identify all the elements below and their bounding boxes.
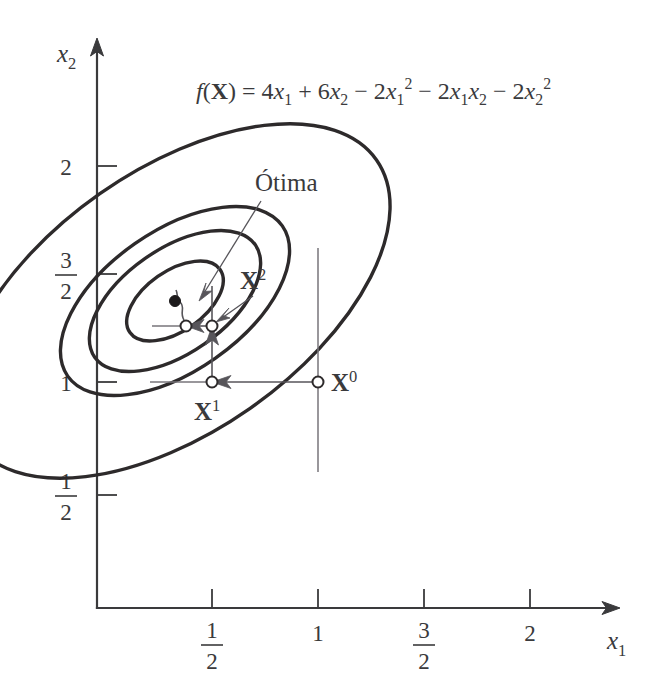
objective-function-equation: f(X) = 4x1 + 6x2 − 2x12 − 2x1x2 − 2x22 <box>196 75 551 108</box>
y-tick-label-3-2-denominator: 2 <box>60 279 72 304</box>
equation-term5-var: x <box>524 78 536 104</box>
label-x0: X0 <box>331 367 357 396</box>
y-tick-label-3-2: 3 2 <box>55 248 77 304</box>
equation-term1-var: x <box>273 78 285 104</box>
equation-term4-sub2: 2 <box>479 91 487 108</box>
equation-term5-sup: 2 <box>543 75 551 92</box>
equation-term3-sup: 2 <box>404 75 412 92</box>
equation-minus3: − <box>493 78 507 104</box>
optimum-leader-arrowhead <box>199 283 212 301</box>
x-tick-label-1-2: 1 2 <box>201 618 223 674</box>
equation-term2-var: x <box>329 78 341 104</box>
x-tick-label-1: 1 <box>312 621 324 646</box>
label-x2: X2 <box>240 265 266 294</box>
equation-term5-sub: 2 <box>535 91 543 108</box>
equation-minus1: − <box>354 78 368 104</box>
equation-arg-X: X <box>211 78 229 104</box>
point-marker-x3 <box>181 321 192 332</box>
y-tick-label-1-2-numerator: 1 <box>60 469 72 494</box>
equation-term3-var: x <box>385 78 397 104</box>
equation-term4-var1: x <box>449 78 461 104</box>
equation-minus2: − <box>418 78 432 104</box>
y-axis-label: x2 <box>56 40 76 73</box>
equation-term4-var2: x <box>467 78 479 104</box>
equation-term1-sub: 1 <box>284 91 292 108</box>
figure-canvas: f(X) = 4x1 + 6x2 − 2x12 − 2x1x2 − 2x22 x… <box>0 0 657 689</box>
x-tick-label-3-2-numerator: 3 <box>418 618 430 643</box>
x-tick-marks <box>212 589 530 608</box>
equation-term4-sub1: 1 <box>461 91 469 108</box>
x-axis-label: x1 <box>606 627 626 660</box>
x-tick-label-3-2: 3 2 <box>413 618 435 674</box>
equation-term2-coef: 6 <box>318 78 330 104</box>
equation-term3-coef: 2 <box>374 78 386 104</box>
point-marker-x0 <box>313 377 324 388</box>
equation-term1-coef: 4 <box>262 78 274 104</box>
x2-leader-arrowhead <box>216 308 230 322</box>
equation-equals: = <box>242 78 256 104</box>
y-tick-label-2: 2 <box>60 155 72 180</box>
equation-plus1: + <box>298 78 312 104</box>
equation-text: f(X) = 4x1 + 6x2 − 2x12 − 2x1x2 − 2x22 <box>196 75 551 108</box>
point-marker-optimum <box>170 296 181 307</box>
x-tick-label-2: 2 <box>524 621 536 646</box>
optimum-label: Ótima <box>255 169 318 196</box>
x-tick-label-1-2-numerator: 1 <box>206 618 218 643</box>
label-x1: X1 <box>194 396 220 425</box>
equation-term4-coef: 2 <box>438 78 450 104</box>
x-tick-label-1-2-denominator: 2 <box>206 649 218 674</box>
point-marker-x1 <box>207 377 218 388</box>
y-tick-marks <box>97 166 117 495</box>
equation-term3-sub: 1 <box>396 91 404 108</box>
equation-term2-sub: 2 <box>340 91 348 108</box>
y-tick-label-1-2-denominator: 2 <box>60 500 72 525</box>
optimization-contour-figure: f(X) = 4x1 + 6x2 − 2x12 − 2x1x2 − 2x22 x… <box>0 0 657 689</box>
x-tick-label-3-2-denominator: 2 <box>418 649 430 674</box>
y-tick-label-3-2-numerator: 3 <box>60 248 72 273</box>
equation-term5-coef: 2 <box>513 78 525 104</box>
